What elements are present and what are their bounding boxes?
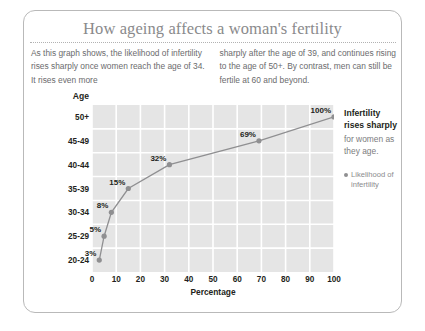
x-tick-30: 30 <box>160 275 169 284</box>
x-axis-title: Percentage <box>92 287 334 297</box>
series-points <box>97 114 334 262</box>
data-point-50+ <box>331 114 334 119</box>
chart-legend: Likelihood of infertility <box>344 170 400 190</box>
series-line <box>99 117 334 260</box>
data-point-25-29 <box>102 234 107 239</box>
sidebar-headline: Infertility rises sharply <box>344 107 400 132</box>
data-point-35-39 <box>126 186 131 191</box>
page-title: How ageing affects a woman's fertility <box>24 19 401 39</box>
dot-icon <box>344 173 348 177</box>
x-tick-60: 60 <box>233 275 242 284</box>
data-point-30-34 <box>109 210 114 215</box>
y-tick-30-34: 30-34 <box>68 208 89 217</box>
y-tick-45-49: 45-49 <box>68 136 89 145</box>
plot-area: 3%5%8%15%32%69%100% <box>92 105 334 272</box>
x-tick-10: 10 <box>112 275 121 284</box>
y-axis-title: Age <box>53 91 89 101</box>
title-divider <box>30 42 396 43</box>
y-tick-40-44: 40-44 <box>68 160 89 169</box>
data-point-40-44 <box>167 162 172 167</box>
x-tick-40: 40 <box>184 275 193 284</box>
x-tick-100: 100 <box>327 275 341 284</box>
data-point-20-24 <box>97 257 102 262</box>
data-label-35-39: 15% <box>109 177 128 186</box>
x-tick-50: 50 <box>208 275 217 284</box>
sidebar-subtext: for women as they age. <box>344 133 400 158</box>
plot-svg <box>92 105 334 272</box>
y-tick-25-29: 25-29 <box>68 232 89 241</box>
intro-text: As this graph shows, the likelihood of i… <box>31 47 397 87</box>
sidebar-annotation: Infertility rises sharply for women as t… <box>344 107 400 190</box>
data-label-30-34: 8% <box>97 201 112 210</box>
fertility-line-chart: Age 20-2425-2930-3435-3940-4445-4950+ 3%… <box>26 91 401 306</box>
x-tick-20: 20 <box>136 275 145 284</box>
data-label-50+: 100% <box>311 105 334 114</box>
data-point-45-49 <box>256 138 261 143</box>
x-tick-90: 90 <box>305 275 314 284</box>
y-tick-50+: 50+ <box>75 112 89 121</box>
x-tick-0: 0 <box>90 275 95 284</box>
x-tick-70: 70 <box>257 275 266 284</box>
infographic-card: How ageing affects a woman's fertility A… <box>23 10 402 313</box>
intro-column-right: sharply after the age of 39, and continu… <box>220 47 398 87</box>
data-label-20-24: 3% <box>85 249 100 258</box>
data-label-40-44: 32% <box>150 153 169 162</box>
x-tick-80: 80 <box>281 275 290 284</box>
y-axis-tick-labels: 20-2425-2930-3435-3940-4445-4950+ <box>34 105 89 272</box>
data-label-25-29: 5% <box>90 225 105 234</box>
legend-label: Likelihood of infertility <box>351 170 400 190</box>
y-tick-35-39: 35-39 <box>68 184 89 193</box>
intro-column-left: As this graph shows, the likelihood of i… <box>31 47 209 87</box>
data-label-45-49: 69% <box>240 129 259 138</box>
